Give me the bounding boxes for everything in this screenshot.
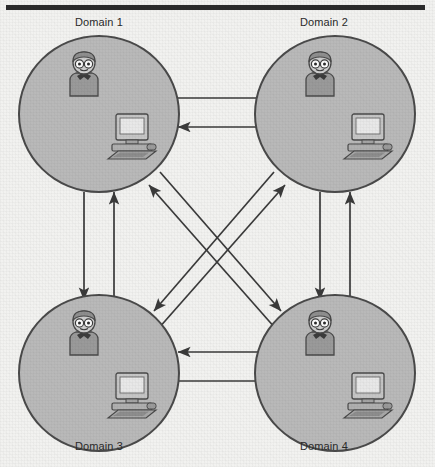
desktop-computer-icon [340,112,396,162]
desktop-computer-icon [104,371,160,421]
domain-label-1: Domain 1 [39,16,159,28]
user-person-icon [294,50,346,102]
domain-trust-figure: Domain 1 Domain 2 Domain 3 Domain 4 [0,0,435,467]
arrow-d3-to-d2 [158,185,285,329]
arrow-d4-to-d1 [149,185,276,329]
arrow-d1-to-d4 [160,172,281,311]
domain-label-4: Domain 4 [264,440,384,452]
arrow-d2-to-d3 [154,172,274,311]
domain-label-2: Domain 2 [264,16,384,28]
domain-label-3: Domain 3 [39,440,159,452]
user-person-icon [58,309,110,361]
desktop-computer-icon [104,112,160,162]
user-person-icon [58,50,110,102]
user-person-icon [294,309,346,361]
desktop-computer-icon [340,371,396,421]
